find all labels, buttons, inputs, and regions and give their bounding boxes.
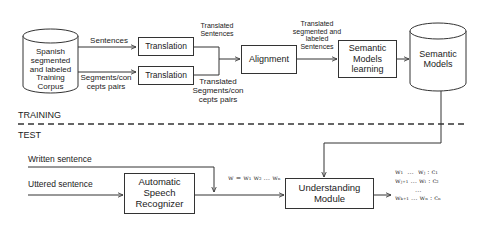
- phase-label-test: TEST: [18, 130, 41, 140]
- output-segment-2: wⱼ₊₁ … wₗ : c₂: [395, 177, 465, 186]
- output-ellipsis: …: [395, 186, 465, 195]
- translation-box-2: Translation: [138, 66, 194, 85]
- phase-label-training: TRAINING: [18, 110, 61, 120]
- output-segment-1: w₁ … wⱼ : c₁: [395, 168, 465, 177]
- segmentation-output: w₁ … wⱼ : c₁ wⱼ₊₁ … wₗ : c₂ … wₖ₊₁ … wₙ …: [395, 168, 465, 203]
- edge-label-segment-concept-pairs: Segments/con cepts pairs: [78, 74, 134, 92]
- asr-box: Automatic Speech Recognizer: [124, 173, 195, 214]
- written-sentence-label: Written sentence: [28, 155, 92, 164]
- edge-label-sentences: Sentences: [84, 37, 134, 46]
- edge-label-translated-labeled-sentences: Translated segmented and labeled Sentenc…: [290, 20, 344, 51]
- edge-label-translated-sentences: Translated Sentences: [190, 22, 244, 37]
- training-corpus-label: Spanish segmented and labeled Training C…: [23, 48, 78, 92]
- edge-label-translated-segment-pairs: Translated Segments/con cepts pairs: [188, 78, 248, 104]
- understanding-module-box: Understanding Module: [285, 178, 374, 209]
- semantic-models-label: Semantic Models: [410, 50, 466, 70]
- uttered-sentence-label: Uttered sentence: [28, 180, 93, 189]
- semantic-models-learning-box: Semantic Models learning: [338, 40, 397, 78]
- word-sequence-label: w = w₁ w₂ … wₙ: [228, 174, 281, 183]
- translation-box-1: Translation: [138, 37, 194, 56]
- output-segment-n: wₖ₊₁ … wₙ : cₙ: [395, 194, 465, 203]
- alignment-box: Alignment: [241, 45, 297, 74]
